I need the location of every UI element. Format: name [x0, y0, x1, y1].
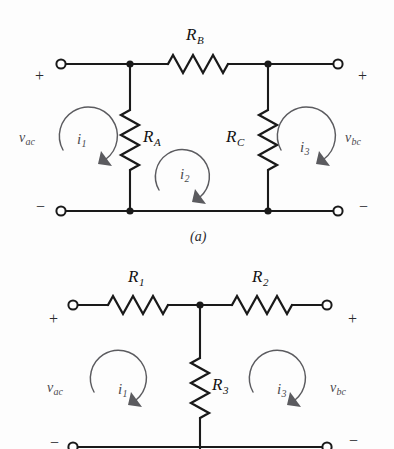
terminal-a-left-bottom — [56, 206, 65, 215]
terminal-b-right-top — [322, 300, 331, 309]
current-label-a-i3: i3 — [300, 140, 309, 155]
resistor-label-b-r3: R3 — [212, 376, 228, 393]
mesh-arrow-a-i1-head — [98, 151, 112, 166]
resistor-label-a-rc: RC — [226, 128, 244, 145]
polarity-sign-a-left-bottom: − — [36, 199, 45, 215]
mesh-arrow-a-i1-arc — [59, 107, 117, 159]
resistor-a-ra-symbol — [121, 110, 139, 170]
resistor-label-b-r2: R2 — [252, 268, 268, 285]
resistor-b-r1-symbol — [108, 296, 168, 314]
polarity-sign-a-right-top: + — [358, 68, 367, 84]
junction-dot-a-top-right — [264, 60, 271, 67]
polarity-sign-b-left-top: + — [49, 311, 58, 327]
resistor-a-rc-symbol — [259, 110, 277, 170]
resistor-label-b-r1: R1 — [128, 268, 144, 285]
mesh-arrow-a-i3-head — [316, 151, 330, 166]
resistor-b-r3-symbol — [191, 358, 209, 418]
resistor-a-rb-symbol — [168, 55, 228, 73]
terminal-a-right-top — [333, 59, 342, 68]
current-label-a-i1: i1 — [77, 132, 86, 147]
resistor-label-a-ra: RA — [143, 128, 161, 145]
voltage-label-a-vbc: vbc — [345, 131, 361, 145]
current-label-b-i3: i3 — [277, 382, 286, 397]
voltage-label-b-vbc: vbc — [330, 381, 346, 395]
junction-dot-a-top-left — [126, 60, 133, 67]
terminal-b-right-bottom — [322, 442, 331, 449]
circuit-figure: RB RA RC vac vbc i1 i2 i3 + − + − (a) R1… — [0, 0, 394, 449]
polarity-sign-b-right-bottom: − — [349, 433, 358, 449]
polarity-sign-a-right-bottom: − — [359, 199, 368, 215]
terminal-b-left-top — [68, 300, 77, 309]
junction-dot-b-center — [196, 301, 203, 308]
polarity-sign-a-left-top: + — [35, 68, 44, 84]
terminal-b-left-bottom — [68, 442, 77, 449]
junction-dot-a-bottom-right — [264, 207, 271, 214]
polarity-sign-b-left-bottom: − — [50, 435, 59, 449]
junction-dot-a-bottom-left — [126, 207, 133, 214]
current-label-a-i2: i2 — [180, 167, 189, 182]
terminal-a-left-top — [56, 59, 65, 68]
current-label-b-i1: i1 — [118, 382, 127, 397]
resistor-label-a-rb: RB — [186, 26, 204, 43]
resistor-b-r2-symbol — [232, 296, 292, 314]
voltage-label-b-vac: vac — [47, 381, 63, 395]
mesh-arrow-b-i3-head — [287, 392, 301, 407]
terminal-a-right-bottom — [333, 206, 342, 215]
figure-caption-a: (a) — [190, 230, 206, 244]
voltage-label-a-vac: vac — [19, 131, 35, 145]
mesh-arrow-a-i2-head — [192, 189, 206, 204]
mesh-arrow-b-i1-head — [128, 392, 142, 407]
circuit-b-group — [68, 296, 331, 449]
polarity-sign-b-right-top: + — [348, 311, 357, 327]
circuit-a-group — [56, 55, 342, 216]
